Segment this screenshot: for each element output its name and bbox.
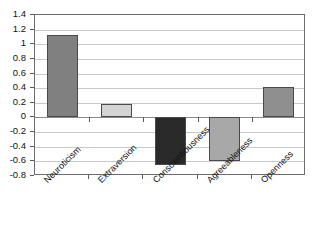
y-axis-tick-label: 0 bbox=[21, 112, 26, 122]
bar bbox=[47, 35, 78, 118]
x-axis-tick bbox=[143, 117, 144, 122]
y-axis-tick-label: 0.8 bbox=[13, 53, 26, 63]
y-axis-tick-label: -0.4 bbox=[10, 141, 26, 151]
y-axis-tick-label: 0.6 bbox=[13, 68, 26, 78]
y-axis-tick-label: 1.2 bbox=[13, 24, 26, 34]
y-axis-tick-label: 1 bbox=[21, 39, 26, 49]
x-axis-tick bbox=[252, 117, 253, 122]
y-axis-tick-label: 0.2 bbox=[13, 97, 26, 107]
x-axis-tick bbox=[198, 117, 199, 122]
x-axis-tick bbox=[89, 117, 90, 122]
bar bbox=[263, 87, 294, 118]
y-axis-tick-label: -0.6 bbox=[10, 156, 26, 166]
x-axis: NeuroticismExtraversionConscientiousness… bbox=[0, 176, 316, 243]
y-axis: 1.41.210.80.60.40.20-0.2-0.4-0.6-0.8 bbox=[0, 14, 30, 175]
y-axis-tick-label: 0.4 bbox=[13, 82, 26, 92]
bar-chart: 1.41.210.80.60.40.20-0.2-0.4-0.6-0.8 Neu… bbox=[0, 0, 316, 243]
bar bbox=[101, 104, 132, 118]
y-axis-tick-label: 1.4 bbox=[13, 9, 26, 19]
y-axis-tick-label: -0.2 bbox=[10, 126, 26, 136]
